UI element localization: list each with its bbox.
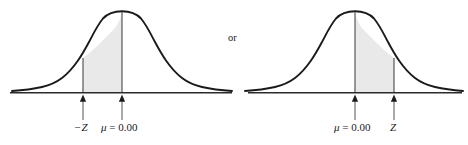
right-zbound-arrow bbox=[391, 95, 397, 121]
right-mean-arrow bbox=[352, 95, 358, 121]
right-shaded-area bbox=[355, 13, 394, 93]
right-normal-curve bbox=[245, 11, 463, 120]
right-zbound-label: Z bbox=[390, 121, 396, 133]
left-zbound-arrow bbox=[80, 95, 86, 121]
right-curve-path bbox=[245, 11, 463, 91]
left-mean-value: = 0.00 bbox=[109, 121, 137, 133]
left-mean-mu-symbol: μ bbox=[101, 121, 107, 133]
right-mean-mu-symbol: μ bbox=[334, 121, 340, 133]
right-mean-value: = 0.00 bbox=[342, 121, 370, 133]
left-mean-arrow bbox=[119, 95, 125, 121]
left-zbound-label: −Z bbox=[74, 121, 88, 133]
figure-canvas bbox=[0, 0, 468, 145]
or-connector-text: or bbox=[228, 32, 237, 43]
left-mean-label: μ = 0.00 bbox=[101, 121, 138, 133]
left-normal-curve bbox=[10, 11, 232, 120]
left-shaded-area bbox=[83, 13, 122, 93]
right-mean-label: μ = 0.00 bbox=[334, 121, 371, 133]
normal-distribution-figure: −Z μ = 0.00 or μ = 0.00 Z bbox=[0, 0, 468, 145]
